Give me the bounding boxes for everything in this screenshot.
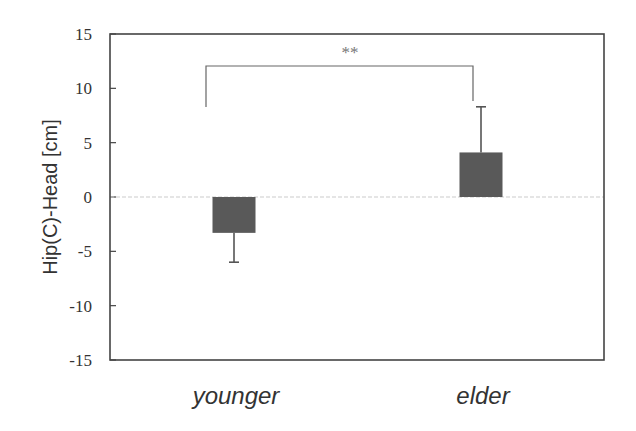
y-tick-label: -10 (69, 297, 92, 316)
x-category-label: younger (191, 382, 281, 409)
bar-elder (460, 152, 503, 197)
x-category-label: elder (456, 382, 510, 409)
y-tick-label: -5 (78, 242, 92, 261)
significance-bracket (206, 66, 473, 107)
significance-stars: ** (342, 43, 359, 62)
bar-chart: 151050-5-10-15 ** Hip(C)-Head [cm] young… (0, 0, 636, 431)
y-tick-label: 0 (84, 188, 93, 207)
y-axis-label: Hip(C)-Head [cm] (39, 119, 61, 275)
bar-younger (213, 197, 256, 233)
y-axis-ticks: 151050-5-10-15 (69, 25, 604, 370)
significance-annotation: ** (206, 43, 473, 107)
y-tick-label: 15 (75, 25, 92, 44)
y-tick-label: 5 (84, 134, 93, 153)
y-tick-label: -15 (69, 351, 92, 370)
y-tick-label: 10 (75, 79, 92, 98)
bars (213, 107, 503, 262)
x-axis-categories: youngerelder (191, 382, 511, 409)
